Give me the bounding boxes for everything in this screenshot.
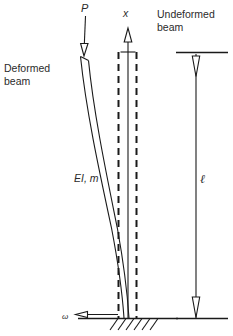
- section-properties-label: EI, m: [74, 172, 99, 185]
- x-axis-label: x: [123, 7, 128, 20]
- diagram-canvas: [0, 0, 233, 336]
- deformed-beam-group: [81, 57, 130, 319]
- dimension-arrow-top-icon: [192, 56, 199, 77]
- fixed-support-group: [78, 319, 178, 331]
- fixed-support-hatching-icon: [110, 319, 158, 331]
- deformed-beam-top-cap: [81, 57, 89, 61]
- deformed-beam-right-edge: [89, 61, 130, 319]
- deformed-beam-left-edge: [81, 57, 125, 319]
- arrow-up-icon: [124, 28, 132, 42]
- arrow-left-icon: [76, 311, 88, 317]
- axial-load-label: P: [81, 2, 88, 15]
- ground-motion-label: ω: [62, 310, 68, 323]
- load-arrow-shaft: [84, 16, 85, 45]
- undeformed-beam-label: Undeformed beam: [157, 8, 231, 34]
- deformed-beam-label: Deformed beam: [4, 62, 76, 88]
- cantilever-beam-figure: Deformed beam Undeformed beam P x EI, m …: [0, 0, 233, 336]
- dimension-arrow-bottom-icon: [192, 297, 199, 318]
- length-label: ℓ: [200, 173, 205, 186]
- arrow-down-icon: [81, 44, 88, 57]
- x-axis-group: [121, 28, 136, 318]
- axial-load-group: [81, 16, 88, 56]
- ground-motion-group: [76, 311, 119, 317]
